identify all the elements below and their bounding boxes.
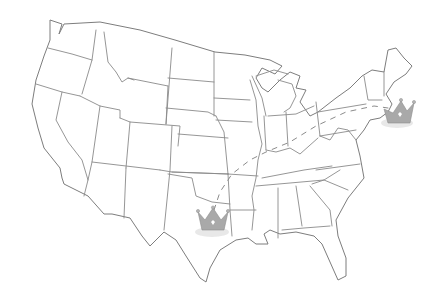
us-map <box>0 0 439 305</box>
